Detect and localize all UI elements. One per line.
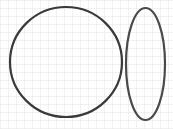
grid-paper-background	[0, 0, 173, 129]
drawing-canvas	[0, 0, 173, 129]
shapes-diagram	[0, 0, 173, 129]
